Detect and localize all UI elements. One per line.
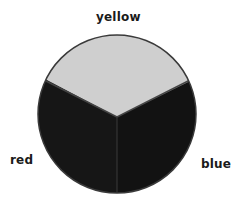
- label-yellow: yellow: [96, 10, 141, 24]
- label-blue: blue: [201, 157, 231, 171]
- label-red: red: [10, 153, 33, 167]
- color-wheel: [0, 0, 239, 208]
